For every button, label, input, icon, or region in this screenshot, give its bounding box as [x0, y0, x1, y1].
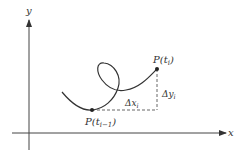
point-end-label: P(ti) — [152, 54, 174, 67]
delta-x-label: Δxi — [124, 98, 139, 110]
delta-y-label: Δyi — [161, 89, 176, 101]
parametric-curve-diagram: y x P(ti) P(ti−1) Δxi Δyi — [0, 0, 239, 156]
point-start — [90, 108, 94, 112]
parametric-curve — [62, 63, 157, 110]
point-start-label: P(ti−1) — [84, 116, 116, 129]
y-axis-label: y — [25, 5, 32, 16]
x-axis-label: x — [228, 127, 234, 138]
point-end — [155, 67, 159, 71]
